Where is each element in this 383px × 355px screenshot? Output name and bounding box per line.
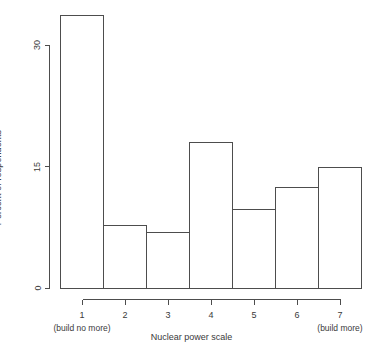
x-tick-label-3: 3 bbox=[158, 310, 178, 320]
bar-2 bbox=[104, 225, 147, 288]
chart-figure: Percent of respondents 30 15 0 1 2 3 4 bbox=[0, 0, 383, 355]
bar-4 bbox=[190, 143, 233, 289]
x-tick-label-4: 4 bbox=[201, 310, 221, 320]
x-axis-label: Nuclear power scale bbox=[0, 332, 383, 342]
x-tick-label-1: 1 bbox=[72, 310, 92, 320]
bar-5 bbox=[233, 209, 276, 288]
bar-7 bbox=[319, 167, 362, 289]
x-tick-label-7: 7 bbox=[330, 310, 350, 320]
bar-3 bbox=[147, 233, 190, 289]
x-tick-label-5: 5 bbox=[244, 310, 264, 320]
x-tick-label-6: 6 bbox=[287, 310, 307, 320]
x-tick-label-2: 2 bbox=[115, 310, 135, 320]
bar-1 bbox=[61, 16, 104, 289]
y-axis bbox=[45, 46, 50, 289]
x-axis bbox=[83, 300, 341, 305]
bar-6 bbox=[276, 187, 319, 288]
plot-area bbox=[0, 0, 383, 355]
bar-series bbox=[61, 16, 362, 289]
